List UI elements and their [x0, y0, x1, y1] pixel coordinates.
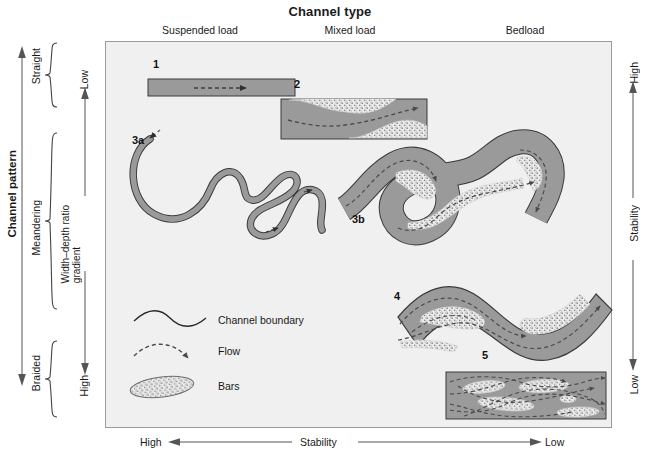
- figure-label-5: 5: [482, 349, 488, 361]
- row-label-straight: Straight: [30, 48, 42, 84]
- legend-group: [129, 311, 206, 401]
- gradient-axis-title-line1: Width–depth ratio: [60, 205, 71, 283]
- figure-label-4: 4: [394, 290, 400, 302]
- right-axis-bottom-label-low: Low: [628, 375, 640, 394]
- brace-meandering: [44, 132, 58, 310]
- bottom-axis-left-label-high: High: [140, 436, 162, 448]
- channel-pattern-axis-arrow: [14, 44, 30, 388]
- figure-4-low-sinuosity-bedload: [398, 287, 612, 361]
- diagram-panel: 1 2 3a 3b 4 5 Channel boundary Flow Bars: [105, 41, 612, 428]
- column-header-mixed-load: Mixed load: [300, 24, 400, 36]
- figure-2-straight-mixed-load: [281, 99, 427, 139]
- figure-label-3a: 3a: [132, 134, 144, 146]
- gradient-axis-bottom-label-high: High: [78, 375, 90, 397]
- figure-3b-meandering-mixed-bedload: [344, 142, 552, 233]
- bottom-axis-right-label-low: Low: [545, 436, 564, 448]
- figure-3a-meandering-suspended-load: [133, 130, 322, 236]
- legend-label-channel-boundary: Channel boundary: [218, 314, 304, 326]
- brace-straight: [44, 42, 58, 108]
- figure-label-2: 2: [294, 78, 300, 90]
- figure-1-straight-suspended-load: [148, 79, 295, 96]
- figure-5-braided-bedload: [446, 372, 606, 419]
- column-header-bedload: Bedload: [470, 24, 580, 36]
- channel-pattern-diagram-svg: [106, 42, 613, 429]
- legend-flow-icon: [134, 344, 188, 358]
- row-label-braided: Braided: [30, 355, 42, 391]
- legend-label-flow: Flow: [218, 345, 240, 357]
- page-title: Channel type: [0, 4, 660, 19]
- gradient-axis-arrow: [77, 86, 93, 376]
- row-label-meandering: Meandering: [30, 200, 42, 255]
- legend-label-bars: Bars: [218, 380, 240, 392]
- figure-label-3b: 3b: [352, 213, 365, 225]
- bottom-stability-axis-arrow: [166, 434, 544, 450]
- brace-braided: [44, 340, 58, 418]
- legend-channel-boundary-icon: [134, 311, 206, 326]
- right-stability-axis-arrow: [625, 80, 641, 372]
- legend-bars-icon: [129, 373, 195, 401]
- column-header-suspended-load: Suspended load: [140, 24, 260, 36]
- figure-label-1: 1: [153, 58, 159, 70]
